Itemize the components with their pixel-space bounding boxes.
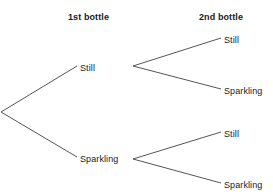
node-label-stage1-sparkling: Sparkling bbox=[80, 154, 118, 164]
node-label-stage2-still-lower: Still bbox=[224, 129, 239, 139]
branch-still-to-sparkling bbox=[133, 66, 221, 89]
node-label-stage2-still-upper: Still bbox=[224, 35, 239, 45]
column-header-stage-1: 1st bottle bbox=[68, 12, 109, 22]
branch-root-to-still bbox=[1, 66, 77, 112]
branch-still-to-still bbox=[133, 38, 221, 66]
tree-branch-lines bbox=[0, 0, 273, 195]
branch-sparkling-to-sparkling bbox=[133, 159, 221, 183]
branch-sparkling-to-still bbox=[133, 132, 221, 159]
branch-root-to-sparkling bbox=[1, 112, 77, 157]
probability-tree-diagram: 1st bottle 2nd bottle Still Sparkling St… bbox=[0, 0, 273, 195]
column-header-stage-2: 2nd bottle bbox=[199, 12, 243, 22]
node-label-stage2-sparkling-lower: Sparkling bbox=[224, 180, 262, 190]
node-label-stage2-sparkling-upper: Sparkling bbox=[224, 86, 262, 96]
node-label-stage1-still: Still bbox=[80, 63, 95, 73]
